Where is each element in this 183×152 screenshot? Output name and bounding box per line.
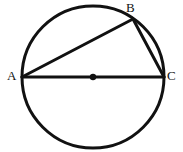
geometry-canvas — [0, 0, 183, 152]
vertex-label-a: A — [7, 69, 16, 82]
vertex-label-b: B — [126, 1, 135, 14]
vertex-label-c: C — [167, 69, 176, 82]
center-dot — [90, 74, 96, 80]
segment-ab — [22, 19, 133, 77]
geometry-figure: A B C — [0, 0, 183, 152]
